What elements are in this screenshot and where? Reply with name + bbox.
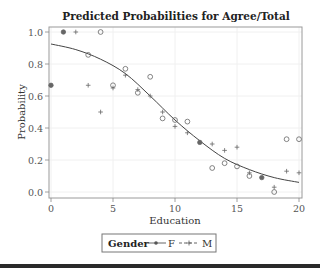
x-tick-label: 10 [169, 203, 181, 214]
y-tick-label: 0.8 [28, 59, 43, 70]
m-point-plus-icon [111, 86, 116, 91]
m-point-plus-icon [185, 131, 190, 136]
legend-m-label: M [202, 238, 212, 249]
f-point-circle-icon [123, 66, 128, 71]
x-tick-label: 5 [110, 203, 116, 214]
f-point-circle-icon [260, 175, 264, 179]
x-tick-label: 20 [293, 203, 305, 214]
y-tick-label: 0.2 [28, 155, 43, 166]
f-point-circle-icon [210, 166, 215, 171]
f-point-circle-icon [198, 140, 202, 144]
m-point-plus-icon [98, 110, 103, 115]
f-point-circle-icon [160, 116, 165, 121]
y-axis-ticks: 0.00.20.40.60.81.0 [28, 27, 49, 198]
m-point-plus-icon [160, 110, 165, 115]
legend-f-label: F [168, 238, 175, 249]
bottom-border-bar [0, 264, 320, 268]
x-tick-label: 0 [48, 203, 54, 214]
m-point-plus-icon [284, 169, 289, 174]
m-point-plus-icon [272, 185, 277, 190]
chart: Predicted Probabilities for Agree/Total … [0, 0, 320, 268]
legend-f-marker-icon [154, 241, 158, 245]
legend-title: Gender [108, 238, 150, 249]
m-point-plus-icon [210, 142, 215, 147]
f-point-circle-icon [49, 83, 53, 87]
y-axis-label: Probability [16, 84, 27, 140]
f-point-circle-icon [148, 74, 153, 79]
f-point-circle-icon [61, 30, 65, 34]
m-point-plus-icon [297, 171, 302, 176]
x-axis-ticks: 05101520 [48, 198, 305, 214]
y-tick-label: 1.0 [28, 27, 43, 38]
x-tick-label: 15 [231, 203, 243, 214]
m-point-plus-icon [222, 148, 227, 153]
m-point-plus-icon [123, 73, 128, 78]
f-point-circle-icon [222, 161, 227, 166]
m-point-plus-icon [74, 30, 79, 35]
m-point-plus-icon [86, 83, 91, 88]
chart-title: Predicted Probabilities for Agree/Total [62, 10, 290, 22]
f-point-circle-icon [185, 119, 190, 124]
y-tick-label: 0.6 [28, 91, 43, 102]
legend: Gender F M [102, 234, 216, 252]
y-tick-label: 0.4 [28, 123, 43, 134]
f-point-circle-icon [284, 137, 289, 142]
y-tick-label: 0.0 [28, 187, 43, 198]
x-axis-label: Education [149, 215, 201, 226]
m-point-plus-icon [235, 145, 240, 150]
